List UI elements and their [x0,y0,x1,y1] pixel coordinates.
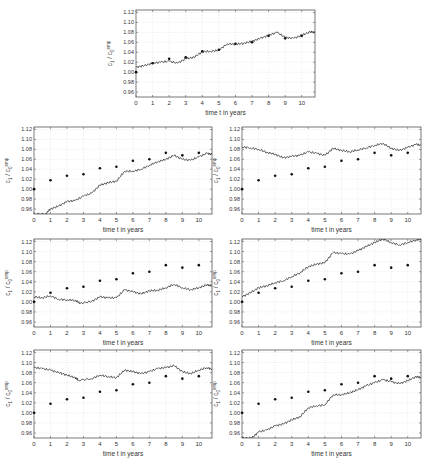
y-tick-label: 1.02 [21,176,32,182]
chart-row3-left: 0123456789100.960.981.001.021.041.061.08… [0,346,218,460]
empirical-marker [201,50,204,53]
empirical-marker [115,389,118,392]
empirical-marker [66,174,69,177]
empirical-marker [198,152,201,155]
plot-area [34,239,212,327]
empirical-marker [307,279,310,282]
empirical-marker [257,403,260,406]
x-axis-label: time t in years [311,450,352,458]
y-tick-label: 1.04 [229,390,240,396]
x-tick-label: 3 [82,441,86,447]
empirical-marker [198,264,201,267]
empirical-marker [406,152,409,155]
y-tick-label: 1.08 [229,259,240,265]
empirical-marker [241,188,244,191]
x-tick-label: 4 [307,330,311,336]
empirical-marker [257,179,260,182]
x-tick-label: 1 [49,441,53,447]
empirical-marker [99,279,102,282]
chart-row2-left: 0123456789100.960.981.001.021.041.061.08… [0,235,218,353]
x-axis-label: time t in years [205,109,246,117]
x-tick-label: 7 [148,441,152,447]
y-tick-label: 0.98 [123,79,134,85]
chart-row3-right: 0123456789100.960.981.001.021.041.061.08… [208,346,427,460]
x-tick-label: 9 [181,217,185,223]
x-tick-label: 7 [250,100,254,106]
x-tick-label: 2 [273,217,277,223]
y-tick-label: 1.04 [123,49,134,55]
x-tick-label: 8 [164,330,168,336]
x-tick-label: 6 [340,330,344,336]
empirical-marker [132,272,135,275]
y-tick-label: 1.04 [21,279,32,285]
y-axis-label: c1 / c0emp [4,270,13,296]
empirical-marker [267,35,270,38]
x-tick-label: 2 [273,330,277,336]
empirical-marker [115,278,118,281]
x-tick-label: 9 [181,441,185,447]
x-tick-label: 1 [257,330,261,336]
x-tick-label: 4 [307,441,311,447]
y-tick-label: 1.12 [229,239,240,245]
empirical-marker [274,174,277,177]
empirical-marker [357,381,360,384]
empirical-marker [251,41,254,44]
y-tick-label: 0.96 [21,319,32,325]
plot-area [34,127,212,214]
x-tick-label: 4 [98,441,102,447]
empirical-marker [290,173,293,176]
y-tick-label: 1.12 [229,350,240,356]
empirical-marker [241,412,244,415]
x-tick-label: 8 [373,330,377,336]
empirical-marker [257,292,260,295]
empirical-marker [390,377,393,380]
empirical-marker [340,272,343,275]
y-tick-label: 1.00 [21,186,32,192]
x-axis-label: time t in years [103,450,144,458]
x-tick-label: 3 [290,330,294,336]
empirical-marker [373,375,376,378]
y-tick-label: 0.98 [21,196,32,202]
empirical-marker [148,270,151,273]
x-tick-label: 5 [323,217,327,223]
x-tick-label: 5 [115,217,119,223]
empirical-marker [218,48,221,51]
x-tick-label: 7 [148,217,152,223]
empirical-marker [165,264,168,267]
y-tick-label: 0.98 [229,196,240,202]
x-tick-label: 8 [373,441,377,447]
y-tick-label: 1.00 [229,410,240,416]
y-tick-label: 0.96 [229,206,240,212]
x-tick-label: 1 [49,217,53,223]
x-tick-label: 5 [115,330,119,336]
empirical-marker [66,287,69,290]
empirical-marker [66,398,69,401]
empirical-marker [184,56,187,59]
x-tick-label: 4 [98,330,102,336]
empirical-marker [151,62,154,65]
y-axis-label: c1 / c0emp [212,270,221,296]
x-tick-label: 1 [257,441,261,447]
empirical-marker [234,43,237,46]
x-tick-label: 1 [257,217,261,223]
chart-row2-right: 0123456789100.960.981.001.021.041.061.08… [208,235,427,353]
x-tick-label: 1 [49,330,53,336]
x-tick-label: 4 [307,217,311,223]
y-tick-label: 0.98 [229,420,240,426]
empirical-marker [148,381,151,384]
empirical-marker [82,285,85,288]
empirical-marker [373,264,376,267]
chart-top: 0123456789100.960.981.001.021.041.061.08… [102,6,321,123]
y-tick-label: 1.10 [229,136,240,142]
plot-area [34,350,212,438]
x-tick-label: 9 [389,330,393,336]
empirical-marker [274,398,277,401]
y-tick-label: 1.12 [21,239,32,245]
y-tick-label: 0.98 [21,420,32,426]
empirical-marker [168,57,171,60]
x-tick-label: 3 [82,217,86,223]
y-tick-label: 1.00 [229,186,240,192]
y-tick-label: 1.02 [229,289,240,295]
chart-row1-left: 0123456789100.960.981.001.021.041.061.08… [0,123,218,240]
empirical-marker [290,396,293,399]
